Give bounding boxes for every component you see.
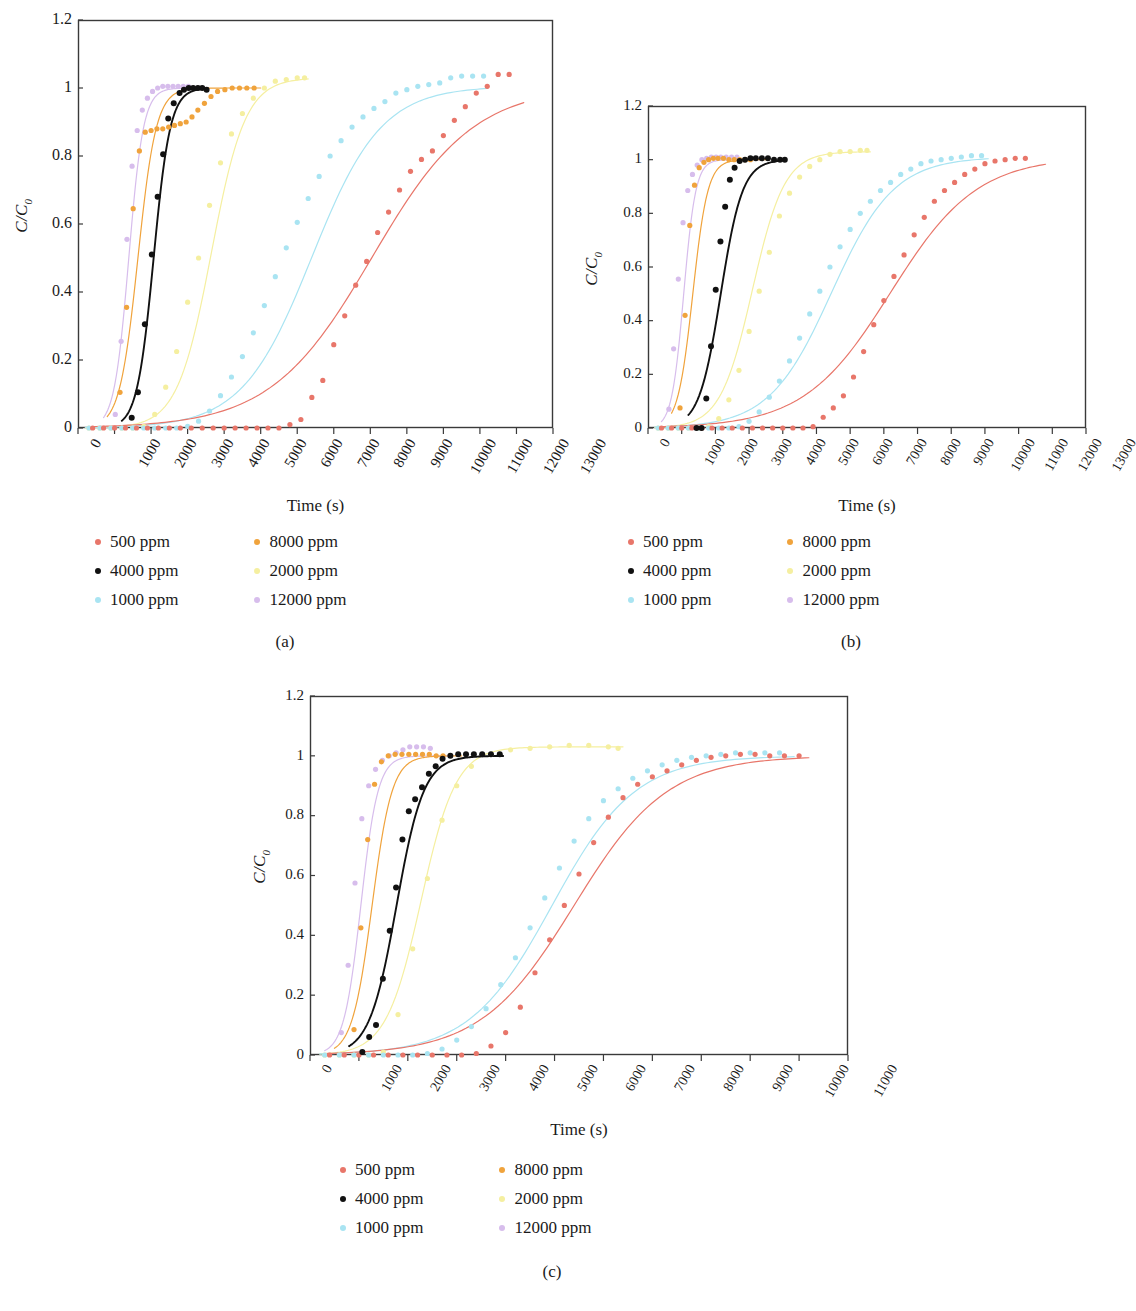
data-point [469,764,474,769]
data-point [922,215,927,220]
data-point [171,100,177,106]
data-point [339,1030,344,1035]
data-point [145,96,150,101]
y-tick-label: 1.2 [566,97,642,114]
x-tick-label: 8000 [390,436,420,470]
data-point [287,422,292,427]
series-points-500-ppm [90,72,512,431]
data-point [265,425,270,430]
data-point [364,259,369,264]
legend-item-2000-ppm[interactable]: 2000 ppm [499,1185,591,1212]
legend-item-500-ppm[interactable]: 500 ppm [628,528,711,555]
data-point [962,172,967,177]
chart-panel-a: C/C0 00.20.40.60.811.2 01000200030004000… [0,0,570,660]
data-point [454,1037,459,1042]
legend-label: 2000 ppm [514,1190,582,1207]
data-point [676,276,681,281]
data-point [404,87,409,92]
legend-item-2000-ppm[interactable]: 2000 ppm [254,557,346,584]
legend-item-1000-ppm[interactable]: 1000 ppm [628,586,711,613]
data-point [888,180,893,185]
data-point [606,815,611,820]
data-point [251,330,256,335]
legend-item-500-ppm[interactable]: 500 ppm [340,1156,423,1183]
data-point [393,91,398,96]
legend-label: 8000 ppm [802,533,870,550]
data-point [797,175,802,180]
legend-item-1000-ppm[interactable]: 1000 ppm [340,1214,423,1241]
data-point [112,425,117,430]
legend-item-8000-ppm[interactable]: 8000 ppm [254,528,346,555]
x-tick-label: 13000 [1109,436,1136,474]
data-point [322,1052,327,1057]
data-point [959,154,964,159]
data-point [295,220,300,225]
legend-item-12000-ppm[interactable]: 12000 ppm [787,586,879,613]
data-point [687,223,692,228]
data-point [327,1052,332,1057]
data-point [124,237,129,242]
legend-item-12000-ppm[interactable]: 12000 ppm [254,586,346,613]
data-point [196,419,201,424]
legend-item-2000-ppm[interactable]: 2000 ppm [787,557,879,584]
data-point [208,94,213,99]
data-point [337,1052,342,1057]
data-point [891,274,896,279]
data-point [156,425,161,430]
data-point [497,751,503,757]
data-point [488,751,494,757]
data-point [567,743,572,748]
legend-item-12000-ppm[interactable]: 12000 ppm [499,1214,591,1241]
y-tick-label: 1 [0,78,72,96]
data-point [901,252,906,257]
data-point [821,415,826,420]
data-point [679,425,684,430]
data-point [720,425,725,430]
data-point [252,85,257,90]
legend-marker-icon [499,1196,505,1202]
data-point [616,786,621,791]
y-tick-label: 1.2 [0,10,72,28]
legend-item-4000-ppm[interactable]: 4000 ppm [95,557,178,584]
legend-item-1000-ppm[interactable]: 1000 ppm [95,586,178,613]
y-tick-label: 0.4 [566,311,642,328]
y-tick-label: 0.2 [566,365,642,382]
data-point [320,378,325,383]
data-point [767,753,772,758]
x-tick-label: 10000 [1007,436,1038,474]
fit-curve-8000-ppm [107,88,260,417]
data-point [165,116,171,122]
legend-item-8000-ppm[interactable]: 8000 ppm [787,528,879,555]
data-point [222,87,227,92]
data-point [371,106,376,111]
data-point [878,188,883,193]
legend-item-8000-ppm[interactable]: 8000 ppm [499,1156,591,1183]
x-tick-label: 4000 [525,1062,553,1094]
data-point [689,755,694,760]
legend-item-4000-ppm[interactable]: 4000 ppm [628,557,711,584]
data-point [90,425,95,430]
data-point [949,156,954,161]
legend-item-500-ppm[interactable]: 500 ppm [95,528,178,555]
data-point [780,425,785,430]
data-point [204,87,210,93]
data-point [262,85,267,90]
data-point [243,425,248,430]
legend-c: 500 ppm8000 ppm4000 ppm2000 ppm1000 ppm1… [340,1156,591,1241]
data-point [349,125,354,130]
data-point [660,762,665,767]
data-point [415,84,420,89]
data-point [233,425,238,430]
fit-curve-8000-ppm [672,160,770,413]
data-point [841,393,846,398]
y-tick-label: 0.4 [232,926,304,943]
legend-item-4000-ppm[interactable]: 4000 ppm [340,1185,423,1212]
data-point [309,395,314,400]
x-tick-label: 3000 [208,436,238,470]
data-point [273,79,278,84]
data-point [382,99,387,104]
legend-marker-icon [254,597,260,603]
data-point [160,151,166,157]
legend-label: 4000 ppm [110,562,178,579]
data-point [207,203,212,208]
